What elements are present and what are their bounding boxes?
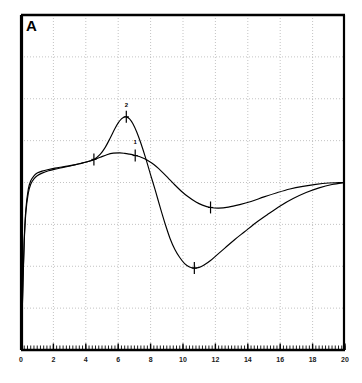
panel-label: A (26, 18, 37, 33)
x-axis-tick-label: 12 (211, 356, 219, 363)
x-axis-tick-label: 4 (84, 356, 88, 363)
x-axis-tick-label: 14 (244, 356, 252, 363)
figure-panel-a: A 02468101214161820 21 (0, 0, 362, 383)
curve-label-2: 2 (125, 102, 128, 108)
x-axis-tick-label: 18 (309, 356, 317, 363)
x-axis-tick-label: 16 (276, 356, 284, 363)
x-axis-tick-label: 2 (51, 356, 55, 363)
x-axis-tick-label: 6 (116, 356, 120, 363)
x-axis-tick-label: 20 (341, 356, 349, 363)
chart-canvas (0, 0, 362, 383)
x-axis-tick-label: 8 (149, 356, 153, 363)
x-axis-tick-label: 0 (19, 356, 23, 363)
x-axis-tick-label: 10 (179, 356, 187, 363)
curve-label-1: 1 (134, 139, 137, 145)
